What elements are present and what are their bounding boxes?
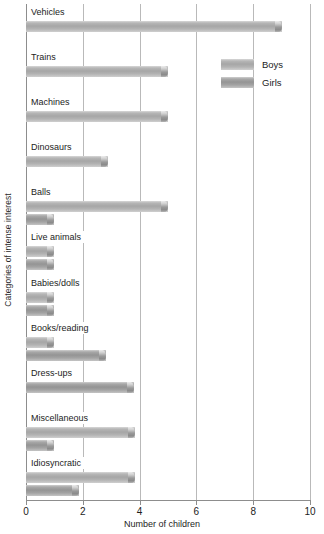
legend-item-girls: Girls (221, 76, 307, 89)
bar-body (26, 21, 282, 32)
bar-girls (26, 350, 106, 361)
bar-body (26, 201, 168, 212)
chart-legend: BoysGirls (221, 58, 307, 94)
bar-boys (26, 246, 54, 257)
x-tick-10 (310, 500, 311, 505)
x-tick-8 (253, 500, 254, 505)
bar-body (26, 350, 106, 361)
bar-girls (26, 485, 79, 496)
category-label: Miscellaneous (30, 412, 91, 424)
legend-item-boys: Boys (221, 58, 307, 71)
x-tick-label: 4 (137, 506, 143, 517)
category-label: Idiosyncratic (30, 457, 84, 469)
x-tick-label: 8 (250, 506, 256, 517)
bar-body (26, 472, 135, 483)
bar-group: Live animals (26, 229, 310, 274)
bar-end-cap (99, 350, 106, 361)
bar-end-cap (127, 382, 134, 393)
bar-boys (26, 21, 282, 32)
x-tick-2 (83, 500, 84, 505)
bar-body (26, 111, 168, 122)
bar-end-cap (275, 21, 282, 32)
x-axis-title: Number of children (0, 519, 324, 529)
bar-group: Dinosaurs (26, 139, 310, 184)
y-axis-title-text: Categories of intense interest (3, 193, 13, 307)
bar-boys (26, 337, 54, 348)
x-tick-0 (26, 500, 27, 505)
bar-boys (26, 292, 54, 303)
x-tick-label: 6 (194, 506, 200, 517)
bar-boys (26, 201, 168, 212)
bar-group: Machines (26, 94, 310, 139)
bar-group: Books/reading (26, 320, 310, 365)
bar-girls (26, 440, 54, 451)
bar-boys (26, 111, 168, 122)
legend-swatch-girls (221, 77, 254, 88)
bar-body (26, 156, 108, 167)
category-label: Babies/dolls (30, 277, 83, 289)
bar-group: Miscellaneous (26, 410, 310, 455)
bar-body (26, 382, 134, 393)
bar-body (26, 66, 168, 77)
bar-end-cap (72, 485, 79, 496)
bar-body (26, 427, 135, 438)
category-label: Live animals (30, 231, 84, 243)
category-label: Dinosaurs (30, 141, 75, 153)
x-axis-line (26, 500, 311, 501)
x-tick-label: 2 (80, 506, 86, 517)
x-tick-6 (196, 500, 197, 505)
gridline-10 (310, 4, 311, 500)
bar-boys (26, 427, 135, 438)
bar-group: Babies/dolls (26, 275, 310, 320)
category-label: Machines (30, 96, 73, 108)
category-label: Dress-ups (30, 367, 75, 379)
bar-group: Idiosyncratic (26, 455, 310, 500)
legend-swatch-boys (221, 59, 254, 70)
x-tick-label: 0 (23, 506, 29, 517)
bar-group: Vehicles (26, 4, 310, 49)
x-tick-label: 10 (304, 506, 315, 517)
bar-boys (26, 156, 108, 167)
category-label: Books/reading (30, 322, 92, 334)
bar-girls (26, 382, 134, 393)
bar-body (26, 485, 79, 496)
bar-girls (26, 214, 54, 225)
category-label: Balls (30, 186, 54, 198)
bar-group: Dress-ups (26, 365, 310, 410)
x-tick-4 (140, 500, 141, 505)
bar-girls (26, 259, 54, 270)
bar-chart: Categories of intense interest VehiclesT… (0, 0, 324, 534)
legend-label-girls: Girls (262, 77, 282, 88)
y-axis-title: Categories of intense interest (0, 0, 16, 500)
bar-girls (26, 305, 54, 316)
legend-label-boys: Boys (262, 59, 283, 70)
bar-boys (26, 472, 135, 483)
bar-boys (26, 66, 168, 77)
category-label: Trains (30, 51, 59, 63)
category-label: Vehicles (30, 6, 68, 18)
bar-group: Balls (26, 184, 310, 229)
